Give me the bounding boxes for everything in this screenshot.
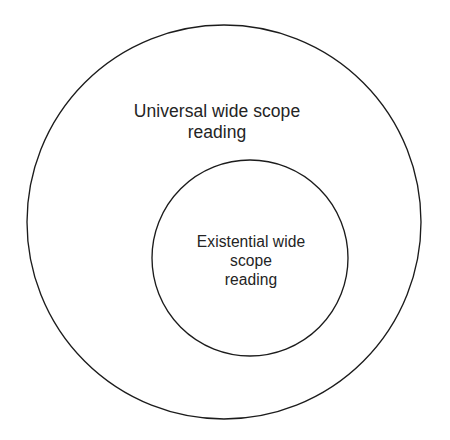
euler-diagram-svg xyxy=(0,0,450,440)
outer-set-label-line-2: reading xyxy=(0,122,442,143)
diagram-background xyxy=(0,0,450,440)
outer-set-label-line-1: Universal wide scope xyxy=(0,101,442,122)
inner-set-label-line-2: scope xyxy=(26,251,450,270)
diagram-canvas: Universal wide scope reading Existential… xyxy=(0,0,450,440)
inner-set-label-line-3: reading xyxy=(26,270,450,289)
inner-set-label-line-1: Existential wide xyxy=(26,232,450,251)
outer-set-label: Universal wide scope reading xyxy=(0,101,442,144)
inner-set-label: Existential wide scope reading xyxy=(26,232,450,289)
